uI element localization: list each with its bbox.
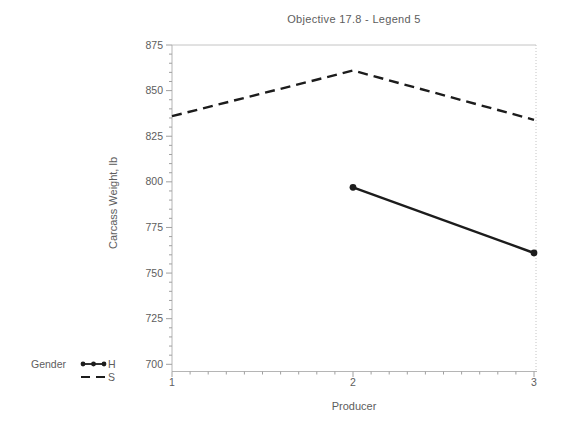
y-tick-label: 850 — [145, 84, 163, 96]
series-line-h — [353, 187, 534, 253]
y-tick-label: 800 — [145, 175, 163, 187]
chart-container: Objective 17.8 - Legend 5 Carcass Weight… — [0, 0, 566, 431]
x-axis-title: Producer — [172, 400, 536, 412]
legend-sample-solid-dots — [80, 359, 107, 369]
series-marker-h — [350, 184, 357, 191]
legend-label-s: S — [108, 371, 115, 383]
legend-dot-icon — [81, 362, 86, 367]
series-line-s — [172, 71, 534, 120]
y-tick-label: 825 — [145, 130, 163, 142]
x-tick-label: 1 — [169, 376, 175, 388]
x-tick-label: 2 — [350, 376, 356, 388]
legend-dot-icon — [102, 362, 107, 367]
x-tick-label: 3 — [531, 376, 537, 388]
y-tick-label: 750 — [145, 267, 163, 279]
y-tick-label: 725 — [145, 312, 163, 324]
y-tick-label: 775 — [145, 221, 163, 233]
legend-dot-icon — [91, 362, 96, 367]
legend-sample-dashed — [80, 372, 107, 382]
y-tick-label: 875 — [145, 39, 163, 51]
legend-label-h: H — [108, 358, 116, 370]
legend-title: Gender — [31, 358, 66, 370]
series-marker-h — [531, 250, 538, 257]
y-tick-label: 700 — [145, 358, 163, 370]
